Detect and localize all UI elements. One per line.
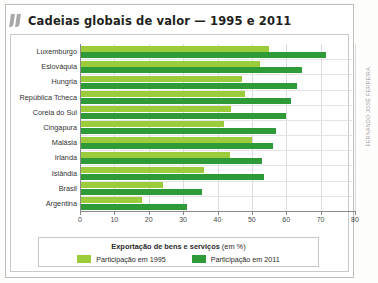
gridline [355, 44, 356, 211]
chart-legend: Exportação de bens e serviços (em %) Par… [38, 237, 319, 267]
bar-1995 [80, 46, 269, 52]
bar-1995 [80, 106, 231, 112]
category-label: Luxemburgo [5, 47, 77, 56]
legend-label-1995: Participação em 1995 [96, 255, 166, 264]
category-label: Coreia do Sul [5, 108, 77, 117]
x-axis-tick [252, 211, 253, 215]
bar-2011 [80, 83, 297, 89]
x-axis-tick [355, 211, 356, 215]
bar-2011 [80, 128, 276, 134]
category-label: Eslováquia [5, 62, 77, 71]
bar-2011 [80, 158, 262, 164]
page-title: Cadeias globais de valor — 1995 e 2011 [28, 14, 291, 28]
bar-1995 [80, 152, 230, 158]
x-axis-tick-label: 20 [145, 216, 153, 223]
category-label: República Tcheca [5, 93, 77, 102]
credit-strip: FERNANDO JOSÉ FERREIRA [358, 4, 377, 146]
legend-item-1995: Participação em 1995 [77, 255, 166, 264]
bar-2011 [80, 67, 302, 73]
x-axis-tick-label: 0 [78, 216, 82, 223]
x-axis-tick-label: 60 [282, 216, 290, 223]
bar-1995 [80, 121, 224, 127]
legend-title-bold: Exportação de bens e serviços [111, 242, 219, 251]
x-axis-tick [183, 211, 184, 215]
legend-title: Exportação de bens e serviços (em %) [39, 242, 318, 251]
category-label: Irlanda [5, 153, 77, 162]
bar-1995 [80, 76, 242, 82]
x-axis-tick-label: 50 [248, 216, 256, 223]
x-axis-tick-label: 10 [110, 216, 118, 223]
plot-area [80, 44, 355, 211]
bar-1995 [80, 137, 252, 143]
x-axis-tick-label: 70 [317, 216, 325, 223]
legend-title-rest: (em %) [220, 242, 246, 251]
bar-1995 [80, 182, 163, 188]
x-axis-tick-label: 40 [214, 216, 222, 223]
title-row: Cadeias globais de valor — 1995 e 2011 [10, 10, 345, 32]
legend-label-2011: Participação em 2011 [211, 255, 280, 264]
bar-2011 [80, 52, 326, 58]
bar-1995 [80, 197, 142, 203]
bar-2011 [80, 113, 286, 119]
quote-mark-icon [10, 14, 21, 29]
x-axis-tick [80, 211, 81, 215]
category-label: Brasil [5, 184, 77, 193]
category-label: Hungria [5, 77, 77, 86]
x-axis-tick-label: 30 [179, 216, 187, 223]
bar-2011 [80, 98, 291, 104]
figure-container: FERNANDO JOSÉ FERREIRA Cadeias globais d… [0, 0, 378, 283]
bar-2011 [80, 204, 187, 210]
gridline [321, 44, 322, 211]
x-axis-tick [149, 211, 150, 215]
x-axis-tick [286, 211, 287, 215]
legend-swatch-2011 [192, 255, 206, 263]
legend-item-2011: Participação em 2011 [192, 255, 280, 264]
bar-1995 [80, 167, 204, 173]
category-label: Cingapura [5, 123, 77, 132]
x-axis-tick-label: 80 [351, 216, 359, 223]
x-axis-tick [218, 211, 219, 215]
category-label: Islândia [5, 169, 77, 178]
y-axis-line [80, 44, 81, 212]
bar-2011 [80, 143, 273, 149]
x-axis-tick [321, 211, 322, 215]
x-axis-tick [114, 211, 115, 215]
category-label: Argentina [5, 199, 77, 208]
legend-swatch-1995 [77, 255, 91, 263]
bar-1995 [80, 61, 260, 67]
bar-2011 [80, 189, 202, 195]
bar-1995 [80, 91, 245, 97]
bar-2011 [80, 174, 264, 180]
legend-items: Participação em 1995 Participação em 201… [39, 255, 318, 264]
category-label: Malásia [5, 138, 77, 147]
credit-text: FERNANDO JOSÉ FERREIRA [365, 67, 371, 146]
